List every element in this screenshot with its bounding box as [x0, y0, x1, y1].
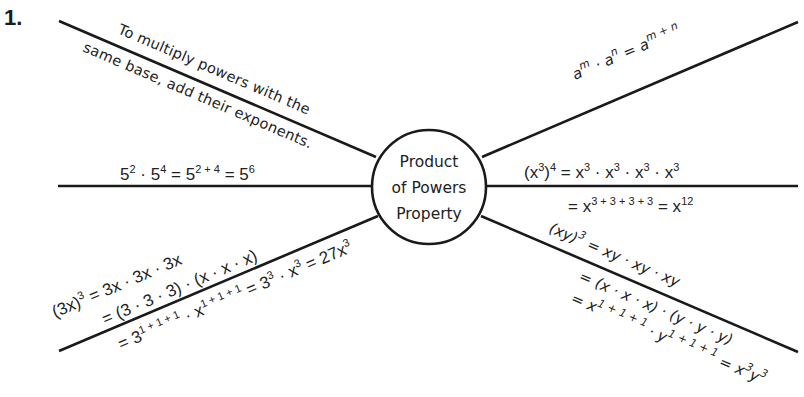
pp2-b: = x	[653, 197, 681, 216]
svg-text:52 · 54 = 52 + 4 = 56: 52 · 54 = 52 + 4 = 56	[120, 163, 255, 184]
numeric-example-branch: 52 · 54 = 52 + 4 = 56	[120, 163, 255, 184]
pp-rhs-exp: 3	[673, 161, 679, 173]
power-of-power-branch: (x3)4 = x3 · x3 · x3 · x3 = x3 + 3 + 3 +…	[524, 161, 693, 216]
pp2-exp: 12	[681, 195, 693, 207]
pxy-lhs: (xy)	[546, 219, 580, 247]
pxy-l3: = x	[568, 289, 599, 316]
spoke-lower-right	[481, 216, 798, 352]
center-label-line3: Property	[396, 205, 462, 223]
pp-rhs: · x	[620, 163, 644, 182]
ex-eq: =	[220, 165, 239, 184]
pxy-l3: = x	[712, 351, 748, 380]
spoke-upper-left	[59, 21, 376, 157]
pp-rhs: = x	[556, 163, 584, 182]
rule-exp3: m + n	[644, 19, 680, 44]
pp-rhs: · x	[650, 163, 674, 182]
ex-base: 5	[239, 165, 248, 184]
power-of-product-xy-branch: (xy)3 = xy · xy · xy = (x · x · x) · (y …	[546, 216, 769, 388]
svg-text:am · an = am + n: am · an = am + n	[568, 19, 683, 84]
definition-branch: To multiply powers with the same base, a…	[81, 21, 315, 152]
ex-base: 5	[120, 165, 129, 184]
ex-base: 5	[151, 165, 160, 184]
center-label-line1: Product	[400, 153, 459, 171]
pp2-exp: 3 + 3 + 3 + 3	[591, 195, 653, 207]
pp-rhs: · x	[590, 163, 614, 182]
ex-exp: 2 + 4	[195, 163, 220, 175]
svg-text:= x1 + 1 + 1 · y1 + 1 + 1 = x3: = x1 + 1 + 1 · y1 + 1 + 1 = x3y3	[568, 286, 769, 388]
ex-eq: =	[166, 165, 185, 184]
ex-base: 5	[186, 165, 195, 184]
pp2-a: = x	[568, 197, 592, 216]
concept-web-diagram: 1. Product of Powers Property To multipl…	[0, 0, 804, 397]
ex-dot: ·	[136, 165, 151, 184]
ex-exp: 6	[249, 163, 255, 175]
rule-branch: am · an = am + n	[568, 19, 683, 84]
center-label-line2: of Powers	[392, 179, 467, 197]
problem-number: 1.	[4, 5, 22, 30]
svg-text:(x3)4 = x3 · x3 · x3 · x3: (x3)4 = x3 · x3 · x3 · x3	[524, 161, 679, 182]
pxy-l3: · y	[642, 321, 671, 347]
pp-lhs-base: (x	[524, 163, 539, 182]
svg-text:= x3 + 3 + 3 + 3 = x12: = x3 + 3 + 3 + 3 = x12	[568, 195, 693, 216]
